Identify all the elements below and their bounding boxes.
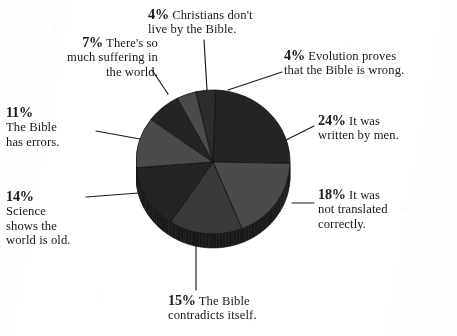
pie-chart-svg (136, 86, 291, 254)
label-text-line-1: It was (349, 114, 380, 128)
pie-chart-infographic: 4% Christians don't live by the Bible. 4… (0, 0, 457, 336)
label-text-line-3: world is old. (6, 233, 128, 247)
percent-value: 7% (82, 34, 103, 50)
pie-side-wall-segment (231, 231, 234, 246)
pie-side-wall-segment (162, 216, 164, 232)
label-text-line-2: shows the (6, 219, 128, 233)
leader-line-christians (204, 40, 207, 90)
pie-side-wall-segment (200, 233, 203, 247)
pie-side-wall-segment (173, 223, 175, 238)
label-text-line-1: Evolution proves (308, 49, 396, 63)
pie-side-wall-segment (228, 232, 231, 247)
pie-side-wall-segment (178, 226, 181, 241)
pie-side-wall-segment (175, 225, 178, 240)
pie-side-wall-segment (237, 230, 240, 245)
percent-value: 4% (284, 47, 305, 63)
label-text-line-2: written by men. (318, 128, 457, 142)
pie-side-wall-segment (164, 218, 166, 234)
label-text-line-1: It was (349, 188, 380, 202)
label-so-much-suffering-in-world: 7% There's so much suffering in the worl… (6, 34, 158, 79)
pie-side-wall-segment (234, 231, 237, 246)
pie-side-wall-segment (186, 229, 189, 244)
pie-side-wall-segment (183, 228, 186, 243)
percent-value: 11% (6, 104, 128, 120)
label-text-line-1: There's so (106, 36, 158, 50)
label-christians-dont-live-by-bible: 4% Christians don't live by the Bible. (148, 6, 298, 37)
label-text-line-2: much suffering in (6, 50, 158, 64)
label-evolution-proves-bible-wrong: 4% Evolution proves that the Bible is wr… (284, 47, 456, 78)
pie-side-wall-segment (245, 226, 248, 241)
pie-side-wall-segment (166, 219, 168, 234)
pie-side-wall-segment (239, 229, 242, 244)
pie-side-wall-segment (180, 227, 183, 242)
pie-side-wall-segment (217, 234, 220, 248)
label-text-line-1: The Bible (199, 294, 250, 308)
pie-side-wall-segment (191, 231, 194, 246)
label-text-line-2: has errors. (6, 135, 128, 149)
pie-side-wall-segment (170, 222, 172, 237)
label-text-line-1: Science (6, 204, 128, 218)
label-bible-has-errors: 11% The Bible has errors. (6, 104, 128, 149)
percent-value: 24% (318, 112, 346, 128)
pie-side-wall-segment (168, 221, 170, 236)
pie-side-wall-segment (242, 227, 245, 242)
label-text-line-2: not translated (318, 202, 457, 216)
label-not-translated-correctly: 18% It was not translated correctly. (318, 186, 457, 231)
percent-value: 18% (318, 186, 346, 202)
pie-side-wall-segment (260, 217, 263, 233)
percent-value: 15% (168, 292, 196, 308)
label-text-line-2: live by the Bible. (148, 22, 298, 36)
pie-side-wall-segment (257, 219, 260, 235)
percent-value: 14% (6, 188, 128, 204)
label-science-shows-world-is-old: 14% Science shows the world is old. (6, 188, 128, 247)
pie-side-wall-segment (225, 233, 228, 247)
label-text-line-1: Christians don't (172, 8, 252, 22)
percent-value: 4% (148, 6, 169, 22)
pie-slice[interactable] (213, 90, 290, 163)
pie-side-wall-segment (254, 221, 257, 237)
pie-chart (136, 86, 291, 254)
pie-side-wall-segment (188, 230, 191, 245)
pie-side-wall-segment (220, 233, 223, 247)
pie-side-wall-segment (248, 224, 251, 240)
pie-side-wall-segment (197, 232, 200, 247)
pie-side-wall-segment (202, 233, 205, 247)
pie-side-wall-segment (205, 234, 208, 248)
pie-slices (136, 90, 290, 234)
label-text-line-1: The Bible (6, 120, 128, 134)
label-text-line-2: that the Bible is wrong. (284, 63, 456, 77)
pie-side-wall-segment (251, 223, 254, 239)
label-text-line-3: correctly. (318, 217, 457, 231)
pie-side-wall-segment (211, 234, 214, 248)
pie-side-wall-segment (194, 232, 197, 247)
label-text-line-3: the world. (6, 65, 158, 79)
label-bible-contradicts-itself: 15% The Bible contradicts itself. (168, 292, 348, 323)
pie-side-wall-segment (214, 234, 217, 248)
pie-side-wall-segment (223, 233, 226, 247)
label-text-line-2: contradicts itself. (168, 308, 348, 322)
pie-side-wall-segment (208, 234, 211, 248)
label-written-by-men: 24% It was written by men. (318, 112, 457, 143)
